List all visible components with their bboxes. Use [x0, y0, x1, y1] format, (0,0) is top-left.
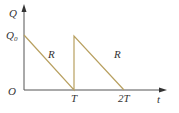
y-axis-label: Q [9, 7, 17, 19]
region-label-1: R [47, 48, 55, 60]
q-vs-t-chart: Q Q0 O T 2T t R R [0, 0, 179, 113]
x-axis-label: t [157, 93, 161, 105]
y-tick-q0: Q0 [6, 29, 18, 43]
y-axis-arrow-icon [22, 4, 27, 12]
region-label-2: R [113, 48, 121, 60]
x-tick-T: T [71, 92, 78, 104]
x-tick-2T: 2T [118, 92, 131, 104]
origin-label: O [8, 85, 16, 97]
x-axis-arrow-icon [159, 88, 167, 93]
charge-curve [24, 35, 124, 90]
